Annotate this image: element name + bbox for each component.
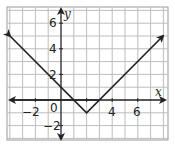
coordinate-graph: y x −2 0 4 6 6 4 2 −2 (0, 0, 175, 148)
y-tick-label: −2 (43, 119, 61, 133)
x-tick-label: 0 (50, 101, 58, 115)
x-tick-label: −2 (22, 105, 40, 119)
x-axis-label: x (155, 85, 162, 99)
y-axis-label: y (63, 7, 71, 21)
grid (7, 7, 168, 140)
x-tick-label: 6 (133, 105, 141, 119)
y-tick-label: 2 (49, 68, 57, 82)
x-tick-label: 4 (108, 105, 116, 119)
y-tick-label: 6 (49, 16, 57, 30)
y-tick-label: 4 (49, 42, 57, 56)
